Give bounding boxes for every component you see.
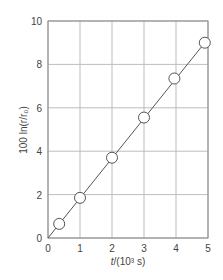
x-tick-label: 2 bbox=[109, 243, 115, 254]
x-tick-label: 0 bbox=[45, 243, 51, 254]
fit-line-segment bbox=[48, 43, 205, 238]
y-axis-ticks: 0246810 bbox=[31, 16, 43, 244]
data-point-marker bbox=[107, 152, 118, 163]
y-axis-label: 100 ln(r/r₀) bbox=[18, 106, 29, 154]
data-point-marker bbox=[54, 218, 65, 229]
x-tick-label: 5 bbox=[205, 243, 211, 254]
y-tick-label: 8 bbox=[36, 59, 42, 70]
y-tick-label: 10 bbox=[31, 16, 43, 27]
y-tick-label: 6 bbox=[36, 103, 42, 114]
x-tick-label: 1 bbox=[77, 243, 83, 254]
plot-frame bbox=[48, 21, 208, 238]
y-tick-label: 4 bbox=[36, 146, 42, 157]
data-point-marker bbox=[169, 73, 180, 84]
chart: 012345 0246810 t/(10³ s) 100 ln(r/r₀) bbox=[0, 0, 223, 280]
y-tick-label: 0 bbox=[36, 233, 42, 244]
y-tick-label: 2 bbox=[36, 190, 42, 201]
x-axis-ticks: 012345 bbox=[45, 243, 211, 254]
data-point-marker bbox=[75, 192, 86, 203]
data-point-marker bbox=[139, 112, 150, 123]
x-tick-label: 3 bbox=[141, 243, 147, 254]
fit-line bbox=[48, 43, 205, 238]
grid-lines bbox=[48, 21, 208, 238]
data-point-marker bbox=[199, 37, 210, 48]
x-tick-label: 4 bbox=[173, 243, 179, 254]
x-axis-label: t/(10³ s) bbox=[111, 256, 145, 267]
